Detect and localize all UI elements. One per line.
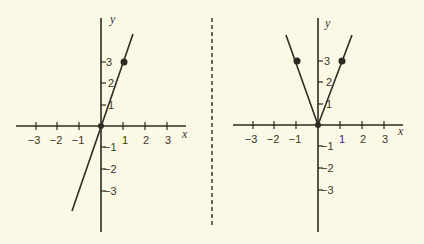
right-x-tick-labels: −3 −2 −1 1 2 3 — [245, 133, 388, 145]
svg-text:−3: −3 — [28, 134, 41, 146]
svg-text:−3: −3 — [104, 185, 117, 197]
svg-text:−1: −1 — [72, 134, 85, 146]
left-y-axis-label: y — [109, 12, 116, 26]
svg-text:3: 3 — [106, 56, 112, 68]
left-x-tick-labels: −3 −2 −1 1 2 3 — [28, 134, 171, 146]
svg-text:3: 3 — [324, 55, 330, 67]
right-point-origin — [315, 122, 321, 128]
svg-text:2: 2 — [326, 76, 332, 88]
svg-text:1: 1 — [326, 98, 332, 110]
left-point-1-3 — [121, 59, 128, 66]
left-point-origin — [98, 123, 104, 129]
right-x-axis-label: x — [397, 124, 404, 138]
svg-text:−1: −1 — [289, 133, 302, 145]
right-y-axis-label: y — [324, 16, 331, 30]
svg-text:3: 3 — [165, 134, 171, 146]
svg-text:−1: −1 — [321, 140, 334, 152]
right-v-shape-line — [286, 35, 352, 125]
svg-text:1: 1 — [108, 99, 114, 111]
figure: y x −3 −2 −1 1 2 3 3 2 1 −1 −2 −3 — [0, 0, 424, 244]
svg-text:−2: −2 — [104, 163, 117, 175]
svg-text:2: 2 — [143, 134, 149, 146]
svg-text:−2: −2 — [50, 134, 63, 146]
svg-text:2: 2 — [108, 77, 114, 89]
svg-text:2: 2 — [360, 133, 366, 145]
left-x-axis-label: x — [181, 127, 188, 141]
svg-text:3: 3 — [382, 133, 388, 145]
right-point-1-3 — [339, 58, 346, 65]
svg-text:1: 1 — [339, 133, 345, 145]
right-point-neg1-3 — [294, 58, 301, 65]
svg-text:−2: −2 — [267, 133, 280, 145]
svg-text:−3: −3 — [321, 184, 334, 196]
svg-text:−3: −3 — [245, 133, 258, 145]
svg-text:−1: −1 — [104, 141, 117, 153]
svg-text:1: 1 — [122, 134, 128, 146]
svg-text:−2: −2 — [321, 162, 334, 174]
